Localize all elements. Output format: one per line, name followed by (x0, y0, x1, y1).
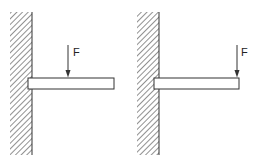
beam (154, 78, 239, 89)
beam (28, 78, 114, 89)
force-label: F (241, 46, 248, 58)
cantilever-diagram: F F (0, 0, 256, 165)
force-label: F (73, 46, 80, 58)
arrowhead-icon (235, 70, 240, 78)
panel-left: F (10, 12, 114, 155)
force-arrow (235, 45, 240, 78)
arrowhead-icon (66, 70, 71, 78)
panel-right: F (137, 12, 248, 155)
force-arrow (66, 45, 71, 78)
